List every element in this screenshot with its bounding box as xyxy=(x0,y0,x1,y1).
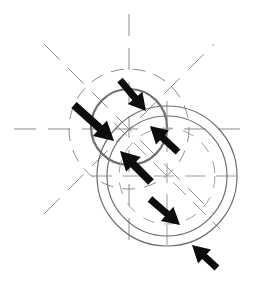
circles-layer xyxy=(69,69,237,246)
geometric-diagram xyxy=(0,0,255,281)
arrows-layer xyxy=(71,78,219,271)
diagram-canvas xyxy=(0,0,255,281)
arrow-top xyxy=(117,78,146,111)
arrow-center-right xyxy=(150,126,180,155)
arrow-center-lower-shape xyxy=(120,151,154,185)
arrow-center-lower xyxy=(120,151,154,185)
arrow-lower-middle xyxy=(148,196,180,225)
arrow-bottom-right-shape xyxy=(192,245,219,271)
arrow-bottom-right xyxy=(192,245,219,271)
arrow-lower-middle-shape xyxy=(148,196,180,225)
arrow-top-shape xyxy=(117,78,146,111)
construction-lines-layer xyxy=(14,14,244,251)
arrow-center-right-shape xyxy=(150,126,180,155)
